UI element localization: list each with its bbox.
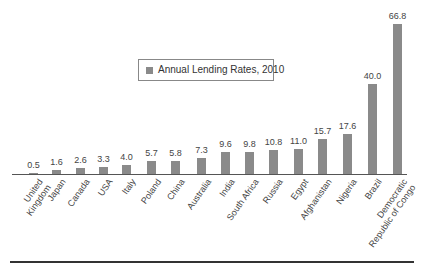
category-label: Japan: [45, 177, 67, 203]
category-label: Russia: [261, 177, 285, 205]
bar: [99, 167, 108, 174]
category-label: Poland: [139, 177, 163, 206]
category-label: Nigeria: [334, 177, 359, 206]
legend-label: Annual Lending Rates, 2010: [158, 64, 284, 75]
category-label: USA: [96, 177, 115, 198]
bar-chart: Annual Lending Rates, 2010 0.5UnitedKing…: [0, 0, 424, 267]
data-label: 17.6: [333, 121, 363, 131]
data-label: 40.0: [358, 71, 388, 81]
category-label: Brazil: [363, 177, 384, 201]
bar: [147, 161, 156, 174]
bar: [269, 150, 278, 174]
bottom-rule: [10, 261, 414, 263]
bar: [122, 165, 131, 174]
bar: [294, 149, 303, 174]
bar: [245, 152, 254, 174]
category-label: Canada: [65, 177, 91, 209]
bar: [393, 24, 402, 174]
bar: [197, 158, 206, 174]
data-label: 66.8: [383, 11, 413, 21]
category-label: Italy: [120, 177, 138, 196]
legend: Annual Lending Rates, 2010: [138, 59, 274, 81]
bar: [221, 152, 230, 174]
category-label: Australia: [185, 177, 213, 211]
category-label: India: [217, 177, 236, 199]
bar: [343, 134, 352, 174]
bar: [368, 84, 377, 174]
legend-swatch: [146, 67, 153, 74]
category-label: Egypt: [289, 177, 310, 202]
data-label: 11.0: [284, 136, 314, 146]
x-axis-line: [12, 174, 407, 175]
bar: [318, 139, 327, 174]
category-label: China: [165, 177, 187, 202]
bar: [171, 161, 180, 174]
